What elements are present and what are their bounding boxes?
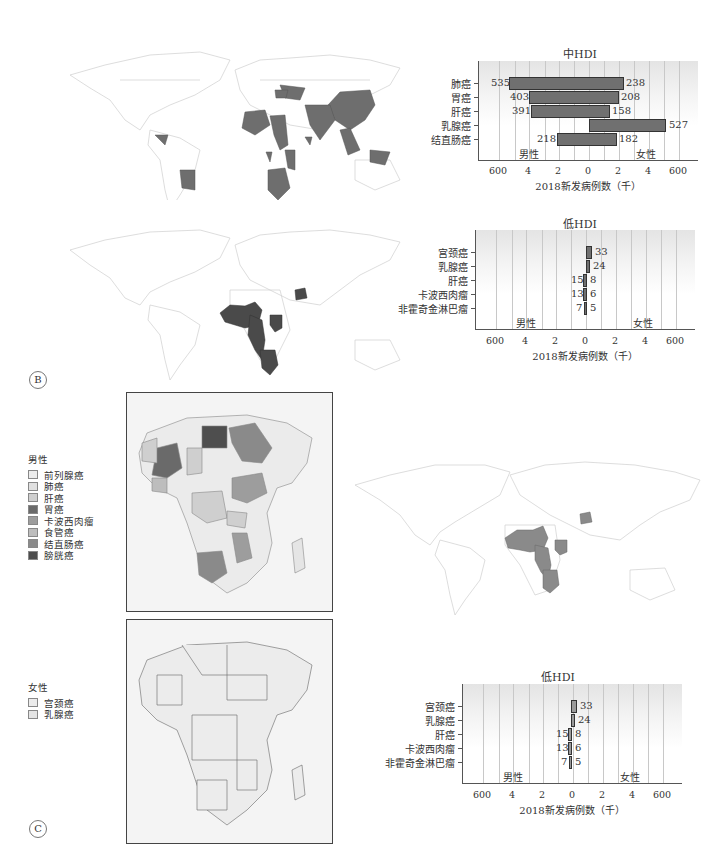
category-label: 卡波西肉瘤 xyxy=(405,741,455,756)
female-label: 女性 xyxy=(633,315,653,330)
female-label: 女性 xyxy=(636,146,656,161)
chart-medium-hdi: 中HDI 肺癌 胃癌 肝癌 乳腺癌 结直肠癌 535 238 403 208 3… xyxy=(450,45,710,210)
female-label: 女性 xyxy=(620,769,640,784)
bar-nhl xyxy=(569,756,572,769)
chart-title: 低HDI xyxy=(450,215,710,231)
legend-item: 乳腺癌 xyxy=(28,709,74,720)
male-label: 男性 xyxy=(519,146,539,161)
panel-label-b: B xyxy=(29,371,47,389)
category-label: 乳腺癌 xyxy=(438,259,468,274)
category-label: 卡波西肉瘤 xyxy=(418,287,468,302)
category-label: 肝癌 xyxy=(451,104,471,119)
bar-stomach xyxy=(529,91,619,104)
category-label: 宫颈癌 xyxy=(438,245,468,260)
category-label: 宫颈癌 xyxy=(425,699,455,714)
bar-cervical xyxy=(586,246,592,259)
bar-breast xyxy=(586,260,590,273)
category-label: 肝癌 xyxy=(448,273,468,288)
bar-cervical xyxy=(571,700,577,713)
category-label: 非霍奇金淋巴瘤 xyxy=(385,755,455,770)
category-label: 胃癌 xyxy=(451,90,471,105)
bar-lung xyxy=(509,77,624,90)
bar-breast xyxy=(589,119,666,132)
category-label: 结直肠癌 xyxy=(431,132,471,147)
chart-low-hdi-b: 低HDI 宫颈癌 乳腺癌 肝癌 卡波西肉瘤 非霍奇金淋巴瘤 33 24 15 8… xyxy=(450,215,710,380)
plot-area: 宫颈癌 乳腺癌 肝癌 卡波西肉瘤 非霍奇金淋巴瘤 33 24 15 8 13 6… xyxy=(462,684,682,784)
x-axis-label: 2018新发病例数（千） xyxy=(519,802,624,817)
male-label: 男性 xyxy=(503,769,523,784)
bar-liver xyxy=(531,105,610,118)
panel-label-c: C xyxy=(29,820,47,838)
world-map-low-hdi-c xyxy=(345,450,715,625)
legend-item: 膀胱癌 xyxy=(28,550,94,561)
x-axis-label: 2018新发病例数（千） xyxy=(535,178,640,193)
world-map-low-hdi xyxy=(30,210,420,380)
legend-female: 女性 宫颈癌 乳腺癌 xyxy=(28,680,74,720)
plot-area: 宫颈癌 乳腺癌 肝癌 卡波西肉瘤 非霍奇金淋巴瘤 33 24 15 8 13 6… xyxy=(475,230,695,330)
bar-breast xyxy=(571,714,575,727)
world-map-medium-hdi xyxy=(30,20,420,200)
plot-area: 肺癌 胃癌 肝癌 乳腺癌 结直肠癌 535 238 403 208 391 15… xyxy=(478,61,698,161)
chart-low-hdi-c: 低HDI 宫颈癌 乳腺癌 肝癌 卡波西肉瘤 非霍奇金淋巴瘤 33 24 15 8… xyxy=(440,668,700,833)
category-label: 肺癌 xyxy=(451,76,471,91)
africa-map-male xyxy=(126,392,333,612)
chart-title: 中HDI xyxy=(450,45,710,61)
x-axis-label: 2018新发病例数（千） xyxy=(532,348,637,363)
category-label: 乳腺癌 xyxy=(425,713,455,728)
male-label: 男性 xyxy=(516,315,536,330)
category-label: 肝癌 xyxy=(435,727,455,742)
bar-nhl xyxy=(584,302,587,315)
africa-map-female xyxy=(126,619,333,844)
category-label: 非霍奇金淋巴瘤 xyxy=(398,301,468,316)
legend-male: 男性 前列腺癌 肺癌 肝癌 胃癌 卡波西肉瘤 食管癌 结直肠癌 膀胱癌 xyxy=(28,452,94,561)
chart-title: 低HDI xyxy=(428,668,688,684)
category-label: 乳腺癌 xyxy=(441,118,471,133)
bar-colorectal xyxy=(557,133,617,146)
